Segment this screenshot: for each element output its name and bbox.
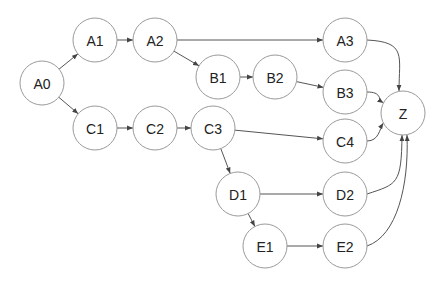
edge-b2-to-b3 bbox=[297, 82, 324, 88]
node-a0: A0 bbox=[20, 61, 64, 105]
node-b3: B3 bbox=[323, 70, 367, 114]
edge-c3-to-c4 bbox=[235, 130, 323, 139]
nodes-layer: A0A1A2A3B1B2B3C1C2C3C4D1D2E1E2Z bbox=[20, 18, 425, 268]
node-label: Z bbox=[399, 106, 408, 122]
node-label: C4 bbox=[336, 134, 354, 150]
node-a3: A3 bbox=[323, 18, 367, 62]
node-label: A0 bbox=[33, 76, 50, 92]
edge-a3-to-z bbox=[367, 40, 400, 91]
edge-b3-to-z bbox=[367, 92, 383, 103]
node-c1: C1 bbox=[73, 106, 117, 150]
node-label: B1 bbox=[209, 70, 226, 86]
node-c4: C4 bbox=[323, 119, 367, 163]
node-label: A1 bbox=[86, 33, 103, 49]
node-c2: C2 bbox=[133, 106, 177, 150]
node-label: B3 bbox=[336, 85, 353, 101]
edge-a0-to-a1 bbox=[59, 54, 78, 69]
node-label: D2 bbox=[336, 187, 354, 203]
node-c3: C3 bbox=[191, 106, 235, 150]
node-e2: E2 bbox=[323, 224, 367, 268]
edge-a2-to-b1 bbox=[174, 51, 199, 66]
node-d2: D2 bbox=[323, 172, 367, 216]
edge-d1-to-e1 bbox=[248, 214, 255, 227]
node-label: E2 bbox=[336, 239, 353, 255]
node-label: B2 bbox=[266, 70, 283, 86]
node-z: Z bbox=[381, 91, 425, 135]
node-b1: B1 bbox=[196, 55, 240, 99]
node-a2: A2 bbox=[133, 18, 177, 62]
node-d1: D1 bbox=[216, 172, 260, 216]
node-label: A2 bbox=[146, 33, 163, 49]
edge-c4-to-z bbox=[367, 123, 383, 141]
edge-d2-to-z bbox=[367, 135, 402, 194]
node-label: C2 bbox=[146, 121, 164, 137]
node-b2: B2 bbox=[253, 55, 297, 99]
node-e1: E1 bbox=[243, 224, 287, 268]
node-label: C3 bbox=[204, 121, 222, 137]
node-label: A3 bbox=[336, 33, 353, 49]
edge-c3-to-d1 bbox=[221, 149, 230, 174]
edge-a0-to-c1 bbox=[59, 97, 78, 114]
node-a1: A1 bbox=[73, 18, 117, 62]
node-label: C1 bbox=[86, 121, 104, 137]
node-label: D1 bbox=[229, 187, 247, 203]
flow-diagram: A0A1A2A3B1B2B3C1C2C3C4D1D2E1E2Z bbox=[0, 0, 444, 287]
node-label: E1 bbox=[256, 239, 273, 255]
